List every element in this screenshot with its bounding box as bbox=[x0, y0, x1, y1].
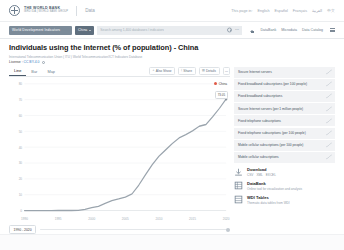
related-indicator-item[interactable]: Secure Internet servers (per 1 million p… bbox=[234, 103, 335, 114]
download-icon bbox=[234, 167, 243, 177]
y-tick-label: 0 bbox=[20, 208, 22, 212]
sparkline-icon bbox=[326, 143, 332, 148]
data-source-line: International Telecommunication Union ( … bbox=[9, 55, 335, 59]
line-chart[interactable]: 01020304050607080 1990199520002005201020… bbox=[9, 79, 230, 223]
legend-series-label: China bbox=[219, 82, 227, 86]
page-header: Individuals using the Internet (% of pop… bbox=[0, 39, 344, 64]
search-nav-bar: World Development Indicators China Searc… bbox=[0, 22, 344, 39]
chart-action-buttons: + Also Show ⟨ Share ▤ Details ⋯ bbox=[149, 67, 230, 75]
resource-subtitle: Thematic data tables from WDI bbox=[247, 201, 290, 205]
table-icon bbox=[234, 195, 243, 205]
product-name[interactable]: Data bbox=[85, 8, 95, 13]
also-show-button[interactable]: + Also Show bbox=[149, 67, 175, 75]
info-icon[interactable]: i bbox=[42, 61, 45, 64]
share-button[interactable]: ⟨ Share bbox=[178, 67, 196, 75]
y-tick-label: 70 bbox=[19, 97, 22, 101]
resource-subtitle: Online tool for visualization and analys… bbox=[247, 187, 302, 191]
tab-map[interactable]: Map bbox=[42, 67, 60, 76]
ellipsis-icon: ⋯ bbox=[225, 69, 228, 73]
y-tick-label: 80 bbox=[19, 82, 22, 86]
x-tick-label: 2000 bbox=[88, 216, 95, 220]
language-switcher: This page in: English Español Français ا… bbox=[231, 8, 335, 13]
language-chinese[interactable]: 中文 bbox=[327, 8, 335, 13]
gear-icon[interactable] bbox=[227, 28, 232, 33]
resource-title: WDI Tables bbox=[247, 195, 290, 200]
brand-text: THE WORLD BANK IBRD IDA | WORLD BANK GRO… bbox=[24, 7, 68, 13]
language-french[interactable]: Français bbox=[293, 9, 307, 13]
y-tick-label: 10 bbox=[19, 192, 22, 196]
y-tick-label: 30 bbox=[19, 161, 22, 165]
ellipsis-icon[interactable]: ⋯ bbox=[235, 28, 239, 32]
y-tick-label: 20 bbox=[19, 177, 22, 181]
language-lead-label: This page in: bbox=[231, 9, 252, 13]
details-button[interactable]: ▤ Details bbox=[199, 67, 220, 75]
resource-item[interactable]: WDI TablesThematic data tables from WDI bbox=[234, 195, 335, 205]
license-label: License : bbox=[9, 60, 23, 64]
database-selector-pill[interactable]: World Development Indicators bbox=[9, 26, 72, 35]
related-indicator-item[interactable]: Secure Internet servers bbox=[234, 67, 335, 78]
nav-link-data-catalog[interactable]: Data Catalog bbox=[302, 28, 323, 32]
resource-link[interactable]: CSV bbox=[247, 173, 253, 177]
brand-block[interactable]: THE WORLD BANK IBRD IDA | WORLD BANK GRO… bbox=[9, 5, 95, 16]
year-range-label[interactable]: 1990 - 2020 bbox=[9, 225, 36, 234]
chart-y-axis-ticks: 01020304050607080 bbox=[19, 82, 22, 213]
tab-bar-label: Bar bbox=[31, 69, 37, 74]
related-indicator-item[interactable]: Fixed telephone subscriptions bbox=[234, 115, 335, 126]
related-indicator-item[interactable]: Fixed broadband subscriptions (per 100 p… bbox=[234, 79, 335, 90]
country-selector-pill[interactable]: China bbox=[75, 26, 94, 35]
resource-body: DataBankOnline tool for visualization an… bbox=[247, 181, 302, 191]
top-utility-bar: THE WORLD BANK IBRD IDA | WORLD BANK GRO… bbox=[0, 0, 344, 22]
resources-list: DownloadCSVXMLEXCELDataBankOnline tool f… bbox=[234, 167, 335, 205]
brand-subname: IBRD IDA | WORLD BANK GROUP bbox=[24, 11, 68, 14]
hamburger-icon[interactable] bbox=[330, 28, 335, 33]
chart-toolbar: Line Bar Map + Also Show ⟨ Share bbox=[9, 67, 230, 77]
sparkline-icon bbox=[326, 70, 332, 75]
country-selector-label: China bbox=[78, 28, 87, 32]
chart-panel: Line Bar Map + Also Show ⟨ Share bbox=[9, 67, 230, 237]
language-spanish[interactable]: Español bbox=[275, 9, 288, 13]
related-indicator-label: Fixed broadband subscriptions bbox=[238, 94, 282, 98]
related-indicator-label: Fixed telephone subscriptions (per 100 p… bbox=[238, 131, 306, 135]
language-english[interactable]: English bbox=[257, 9, 269, 13]
search-input[interactable]: Search among 1,400 databases / indicator… bbox=[97, 26, 242, 35]
chart-point-tooltip: 73.05 bbox=[215, 91, 228, 99]
x-tick-label: 2020 bbox=[223, 216, 230, 220]
resource-link[interactable]: EXCEL bbox=[266, 173, 276, 177]
chart-x-axis-ticks: 1990199520002005201020152020 bbox=[21, 216, 230, 220]
world-bank-logo-icon bbox=[9, 5, 20, 16]
related-indicator-label: Mobile cellular subscriptions bbox=[238, 155, 279, 159]
sparkline-icon bbox=[326, 131, 332, 136]
footer-strip bbox=[0, 234, 344, 250]
tab-line[interactable]: Line bbox=[9, 67, 26, 76]
resource-item[interactable]: DownloadCSVXMLEXCEL bbox=[234, 167, 335, 177]
nav-link-microdata[interactable]: Microdata bbox=[281, 28, 297, 32]
details-label: Details bbox=[206, 69, 216, 73]
tab-bar[interactable]: Bar bbox=[26, 67, 42, 76]
chart-svg: 01020304050607080 1990199520002005201020… bbox=[9, 79, 230, 223]
sparkline-icon bbox=[326, 94, 332, 99]
related-indicator-item[interactable]: Fixed broadband subscriptions bbox=[234, 91, 335, 102]
year-range-slider[interactable] bbox=[40, 229, 230, 230]
related-indicator-item[interactable]: Mobile cellular subscriptions bbox=[234, 152, 335, 163]
license-value[interactable]: CC BY-4.0 bbox=[24, 60, 40, 64]
legend-color-swatch bbox=[214, 82, 217, 85]
resource-link[interactable]: XML bbox=[256, 173, 262, 177]
tab-line-label: Line bbox=[14, 68, 21, 73]
chart-legend[interactable]: China bbox=[214, 82, 227, 86]
chart-more-button[interactable]: ⋯ bbox=[223, 67, 231, 75]
page-title: Individuals using the Internet (% of pop… bbox=[9, 43, 335, 52]
tab-map-label: Map bbox=[47, 69, 55, 74]
home-icon[interactable] bbox=[250, 28, 255, 33]
share-label: Share bbox=[183, 69, 192, 73]
sidebar-panel: Secure Internet serversFixed broadband s… bbox=[234, 67, 335, 237]
language-arabic[interactable]: العربية bbox=[312, 9, 322, 13]
resource-item[interactable]: DataBankOnline tool for visualization an… bbox=[234, 181, 335, 191]
related-indicator-item[interactable]: Mobile cellular subscriptions (per 100 p… bbox=[234, 140, 335, 151]
nav-link-databank[interactable]: DataBank bbox=[260, 28, 276, 32]
related-indicator-label: Fixed broadband subscriptions (per 100 p… bbox=[238, 82, 307, 86]
related-indicator-item[interactable]: Fixed telephone subscriptions (per 100 p… bbox=[234, 128, 335, 139]
x-tick-label: 1995 bbox=[55, 216, 62, 220]
plus-icon: + bbox=[152, 69, 154, 72]
resource-title: DataBank bbox=[247, 181, 302, 186]
x-tick-label: 2010 bbox=[155, 216, 162, 220]
